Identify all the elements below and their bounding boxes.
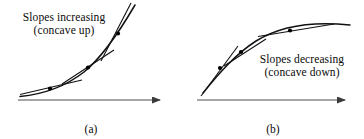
panel-a: Slopes increasing (concave up) (a) [0,0,182,139]
caption-a: (a) [0,122,182,136]
panel-b: Slopes decreasing (concave down) (b) [182,0,364,139]
annotation-label-b: Slopes decreasing (concave down) [244,53,360,79]
annotation-b-line2: (concave down) [244,66,360,79]
tangent-point-b-2 [239,50,243,54]
caption-b: (b) [182,122,364,136]
annotation-a-line1: Slopes increasing [8,11,120,24]
tangent-point-a-2 [86,65,90,69]
annotation-label-a: Slopes increasing (concave up) [8,11,120,37]
concavity-figure: Slopes increasing (concave up) (a) Slope… [0,0,364,139]
tangent-point-b-3 [288,28,292,32]
tangent-point-b-1 [218,66,222,70]
annotation-b-line1: Slopes decreasing [244,53,360,66]
tangent-point-a-1 [48,86,52,90]
annotation-a-line2: (concave up) [8,24,120,37]
